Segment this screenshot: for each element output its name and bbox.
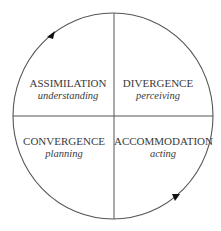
- quadrant-title: DIVERGENCE: [120, 78, 196, 89]
- quadrant-subtitle: understanding: [28, 91, 108, 102]
- quadrant-subtitle: perceiving: [120, 91, 196, 102]
- quadrant-subtitle: acting: [114, 149, 212, 160]
- arrowhead-icon: [172, 194, 180, 201]
- quadrant-divergence: DIVERGENCE perceiving: [120, 78, 196, 102]
- quadrant-subtitle: planning: [22, 149, 106, 160]
- quadrant-convergence: CONVERGENCE planning: [22, 136, 106, 160]
- learning-cycle-diagram: ASSIMILATION understanding DIVERGENCE pe…: [0, 0, 221, 231]
- quadrant-title: CONVERGENCE: [22, 136, 106, 147]
- cycle-circle-graphic: [0, 0, 221, 231]
- quadrant-assimilation: ASSIMILATION understanding: [28, 78, 108, 102]
- quadrant-title: ASSIMILATION: [28, 78, 108, 89]
- quadrant-accommodation: ACCOMMODATION acting: [114, 136, 212, 160]
- quadrant-title: ACCOMMODATION: [114, 136, 212, 147]
